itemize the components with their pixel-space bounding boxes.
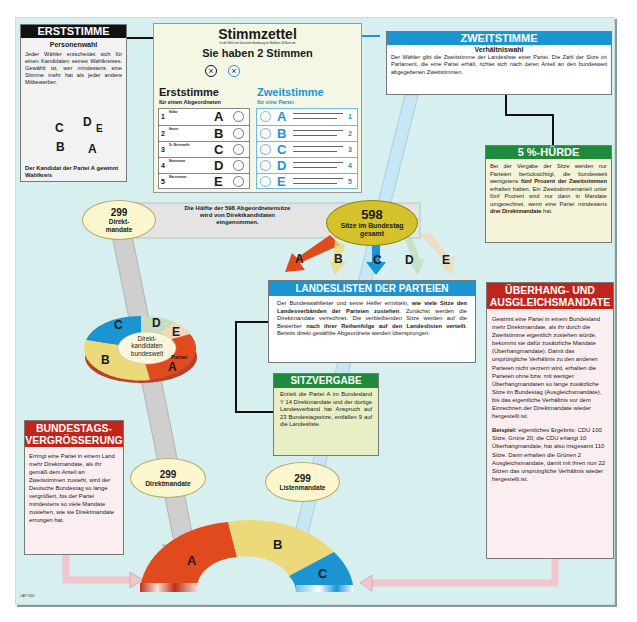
arrow-label-b: B xyxy=(334,252,343,266)
huerde-text: Bei der Vergabe der Sitze werden nur Par… xyxy=(486,159,611,219)
ballot-headline: Sie haben 2 Stimmen xyxy=(154,47,361,59)
party-row: C 3 xyxy=(257,141,357,157)
candidate-row: 2 Hauser B xyxy=(159,125,249,141)
donut-center-label: Direkt-kandidaten bundesweit xyxy=(122,335,172,357)
vergroesserung-panel: BUNDESTAGS-VERGRÖSSERUNG Erringt eine Pa… xyxy=(24,420,124,555)
candidate-row: 5 Wassermann E xyxy=(159,173,249,189)
ballot-subtitle: für die Wahl zum Deutschen Bundestag im … xyxy=(154,42,361,45)
candidate-row: 3 Dr. Westerwelle C xyxy=(159,141,249,157)
zweitstimme-panel: ZWEITSTIMME Verhältniswahl Der Wähler gi… xyxy=(386,31,612,95)
donut-label-e: E xyxy=(172,325,180,339)
erststimme-subheader: Personenwahl xyxy=(21,41,126,48)
vote-circle[interactable] xyxy=(233,176,244,187)
listenmandate-bottom-ellipse: 299 Listenmandate xyxy=(265,462,340,502)
zweitstimme-subheader: Verhältniswahl xyxy=(387,46,611,53)
landeslisten-text: Der Bundeswahlleiter und seine Helfer er… xyxy=(269,296,475,342)
arrow-label-a: A xyxy=(295,252,304,266)
zweitstimme-list: A 1 B 2 C 3 D 4 E 5 xyxy=(256,108,358,189)
ueberhang-text: Gewinnt eine Partei in einem Bundesland … xyxy=(487,309,613,426)
vergroesserung-text: Erringt eine Partei in einem Land mehr D… xyxy=(25,447,123,529)
ballot-title: Stimmzettel xyxy=(154,27,361,42)
direkt-band-text: Die Hälfte der 598 Abgeordnetensitze wir… xyxy=(180,205,295,227)
donut-label-b: B xyxy=(101,353,110,367)
pie-label-b: B xyxy=(56,140,65,154)
pie-label-a: A xyxy=(88,142,97,156)
erststimme-cross-icon[interactable]: × xyxy=(205,65,217,77)
erststimme-text: Jeder Wähler entscheidet sich für einen … xyxy=(21,48,126,89)
vote-circle[interactable] xyxy=(233,144,244,155)
candidate-row: 4 Mannemann D xyxy=(159,157,249,173)
zweitstimme-header: ZWEITSTIMME xyxy=(387,32,611,45)
vote-circle[interactable] xyxy=(260,144,271,155)
vote-circle[interactable] xyxy=(233,111,244,122)
arrow-label-c: C xyxy=(373,253,382,267)
candidate-row: 1 Kalbar A xyxy=(159,109,249,125)
ballot-erststimme-sub: für einen Abgeordneten xyxy=(159,99,221,105)
sitzvergabe-header: SITZVERGABE xyxy=(274,374,378,388)
ueberhang-panel: ÜBERHANG- UNDAUSGLEICHSMANDATE Gewinnt e… xyxy=(486,282,614,559)
vote-circle[interactable] xyxy=(233,160,244,171)
erststimme-header: ERSTSTIMME xyxy=(21,25,126,38)
vote-circle[interactable] xyxy=(260,128,271,139)
party-row: A 1 xyxy=(257,109,357,125)
ballot-zweitstimme-sub: für eine Partei xyxy=(257,99,294,105)
total-seats-ellipse: 598 Sitze im Bundestag gesamt xyxy=(326,200,418,246)
party-row: E 5 xyxy=(257,173,357,189)
parliament-label-a: A xyxy=(187,553,196,568)
arrow-label-e: E xyxy=(442,253,450,267)
direktmandate-top-ellipse: 299 Direkt-mandate xyxy=(82,200,156,240)
zweitstimme-cross-icon[interactable]: × xyxy=(228,65,240,77)
pie-label-e: E xyxy=(96,123,103,134)
ballot-zweitstimme-title: Zweitstimme xyxy=(257,86,324,98)
pie-label-c: C xyxy=(55,121,64,135)
donut-label-d: D xyxy=(152,316,161,330)
landeslisten-panel: LANDESLISTEN DER PARTEIEN Der Bundeswahl… xyxy=(268,280,476,363)
direkt-stream xyxy=(112,235,196,552)
ueberhang-example: Beispiel: eigentliches Ergebnis: CDU 100… xyxy=(487,426,613,483)
landeslisten-header: LANDESLISTEN DER PARTEIEN xyxy=(269,281,475,296)
erststimme-panel: ERSTSTIMME Personenwahl Jeder Wähler ent… xyxy=(20,24,127,182)
party-row: D 4 xyxy=(257,157,357,173)
ballot-erststimme-title: Erststimme xyxy=(159,86,219,98)
pie-label-d: D xyxy=(83,115,92,129)
party-row: B 2 xyxy=(257,125,357,141)
parliament-label-b: B xyxy=(273,537,282,552)
sitzvergabe-panel: SITZVERGABE Erzielt die Partei A im Bund… xyxy=(273,373,379,456)
vote-circle[interactable] xyxy=(233,128,244,139)
donut-partei-label: Partei xyxy=(171,354,187,360)
arrow-label-d: D xyxy=(405,253,414,267)
vote-circle[interactable] xyxy=(260,160,271,171)
huerde-header: 5 %-HÜRDE xyxy=(486,146,611,159)
vergroesserung-header: BUNDESTAGS-VERGRÖSSERUNG xyxy=(25,421,123,447)
ueberhang-header: ÜBERHANG- UNDAUSGLEICHSMANDATE xyxy=(487,283,613,309)
parliament-label-c: C xyxy=(318,566,327,581)
direktmandate-bottom-ellipse: 299 Direktmandate xyxy=(130,458,206,498)
donut-label-a: A xyxy=(168,360,177,374)
zweitstimme-text: Der Wähler gibt die Zweitstimme der Land… xyxy=(387,53,611,79)
vote-circle[interactable] xyxy=(260,111,271,122)
vote-circle[interactable] xyxy=(260,176,271,187)
donut-label-c: C xyxy=(114,318,123,332)
credit: LAP/ 666 xyxy=(20,594,34,598)
sitzvergabe-text: Erzielt die Partei A im Bundesland Y 14 … xyxy=(274,388,378,432)
erststimme-caption: Der Kandidat der Partei A gewinnt Wahlkr… xyxy=(25,165,125,179)
erststimme-list: 1 Kalbar A 2 Hauser B 3 Dr. Westerwelle … xyxy=(158,108,250,189)
stimmzettel-ballot: Stimmzettel für die Wahl zum Deutschen B… xyxy=(153,23,362,193)
fuenf-prozent-huerde-panel: 5 %-HÜRDE Bei der Vergabe der Sitze werd… xyxy=(485,145,612,243)
